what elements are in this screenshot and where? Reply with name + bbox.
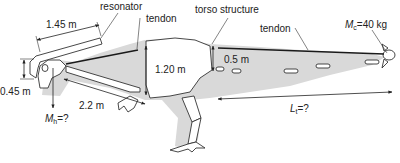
tendon-tail-label: tendon [260,23,291,34]
tendon-front-label: tendon [146,13,177,24]
resonator-label: resonator [100,1,143,12]
resonator-length-label: 1.45 m [46,19,77,30]
head-height-label: 0.45 m [0,86,31,97]
tail-length-dimension [218,92,392,99]
torso-structure-label: torso structure [195,4,259,15]
tail-mass-label: Mc=40 kg [345,19,387,31]
dinosaur-diagram: resonator tendon torso structure tendon … [0,0,400,163]
tail-length-label: Lt=? [290,103,309,115]
tail-base-height-label: 0.5 m [224,54,249,65]
tail-club [382,44,395,68]
head-mass-label: Mh=? [45,113,69,125]
eye-socket [42,65,48,72]
neck-length-label: 2.2 m [79,100,104,111]
torso-height-label: 1.20 m [155,64,186,75]
